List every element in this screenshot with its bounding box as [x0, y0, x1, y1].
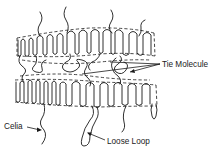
loose-loop-label: Loose Loop — [107, 137, 150, 146]
cilium-bottom-3 — [122, 106, 126, 132]
upper-folded-chains — [18, 30, 151, 57]
cilium-top-3 — [109, 10, 113, 33]
cilium-top-1 — [38, 12, 42, 36]
lower-lamella-right-edge — [156, 85, 157, 106]
loose-loop-chain — [81, 106, 98, 146]
upper-lamella — [17, 28, 155, 57]
arrowhead-icon — [37, 128, 42, 133]
lamellae-diagram: Tie Molecule Celia Loose Loop — [0, 0, 223, 155]
tie-molecule-arrow-3 — [130, 64, 160, 72]
celia-callout: Celia — [4, 122, 42, 132]
upper-lamella-bottom-boundary — [17, 53, 155, 56]
celia-label: Celia — [4, 122, 23, 131]
cilium-celia — [40, 104, 45, 144]
lower-lamella — [15, 79, 157, 107]
tie-molecule-arrow-1 — [110, 62, 160, 64]
tie-molecule-label: Tie Molecule — [162, 60, 209, 69]
tie-molecule-left-loop — [32, 56, 46, 73]
lower-folded-chains — [16, 80, 150, 108]
arrowhead-icon — [130, 69, 135, 73]
tie-molecule-callout: Tie Molecule — [82, 60, 209, 74]
loose-loop-callout: Loose Loop — [87, 133, 150, 147]
upper-lamella-right-edge — [154, 33, 155, 56]
tie-molecule-right — [114, 56, 127, 74]
cilium-top-2 — [64, 7, 68, 33]
tie-molecule-arrow-2 — [82, 64, 160, 74]
